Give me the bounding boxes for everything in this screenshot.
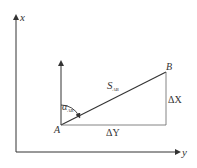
x-axis-label: x — [19, 11, 25, 23]
y-axis-label: y — [181, 146, 187, 158]
point-a-label: A — [53, 124, 61, 135]
delta-x-label: ΔX — [168, 94, 182, 105]
azimuth-label: αAB — [62, 101, 73, 113]
distance-label: SAB — [107, 79, 119, 92]
delta-y-label: ΔY — [106, 127, 120, 138]
coordinate-diagram: x y A B SAB αAB ΔX ΔY — [0, 0, 197, 168]
segment-ab — [61, 72, 166, 125]
point-b-label: B — [166, 61, 172, 72]
